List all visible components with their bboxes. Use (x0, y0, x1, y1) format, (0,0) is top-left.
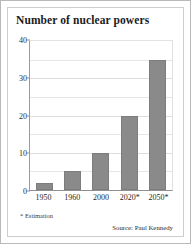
x-tick-label-2050: 2050* (145, 193, 173, 202)
bar-2000 (92, 153, 109, 190)
source-note: Source: Paul Kennedy (112, 224, 173, 231)
y-tick-label-30: 30 (11, 73, 27, 82)
x-tick-label-1960: 1960 (58, 193, 86, 202)
x-tick-label-1950: 1950 (29, 193, 57, 202)
chart-frame: Number of nuclear powers 40 30 20 10 0 (7, 7, 184, 237)
bar-2050 (149, 60, 166, 190)
x-tick-label-2000: 2000 (87, 193, 115, 202)
plot-area (29, 40, 173, 191)
y-tick-label-20: 20 (11, 111, 27, 120)
bar-2020 (121, 116, 138, 191)
x-axis: 1950 1960 2000 2020* 2050* (29, 193, 173, 207)
estimation-footnote: * Estimation (20, 212, 53, 219)
y-tick-label-40: 40 (11, 36, 27, 45)
figure-container: Number of nuclear powers 40 30 20 10 0 (0, 0, 191, 244)
y-tick-label-10: 10 (11, 149, 27, 158)
bar-1950 (36, 183, 53, 190)
bar-series (30, 41, 172, 190)
y-axis: 40 30 20 10 0 (8, 40, 27, 191)
bar-1960 (64, 171, 81, 190)
x-tick-label-2020: 2020* (116, 193, 144, 202)
y-tick-label-0: 0 (11, 187, 27, 196)
chart-title: Number of nuclear powers (16, 14, 149, 26)
